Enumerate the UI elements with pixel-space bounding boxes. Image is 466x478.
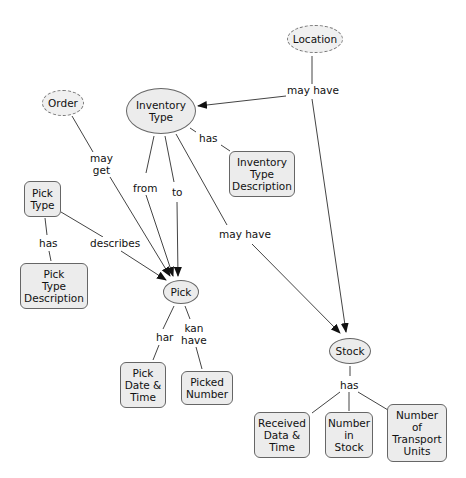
edge-label-location-inventory-may-have: may have — [286, 84, 340, 96]
node-pick-date-time[interactable]: Pick Date & Time — [120, 362, 166, 408]
edge-label-inventory-stock-may-have: may have — [218, 228, 272, 240]
node-stock[interactable]: Stock — [329, 338, 371, 364]
edge-label-from: from — [132, 182, 158, 194]
node-location[interactable]: Location — [287, 25, 343, 53]
node-pick-type[interactable]: Pick Type — [24, 181, 61, 217]
edge-label-describes: describes — [89, 237, 141, 249]
edge-label-kan-have: kan have — [180, 322, 208, 346]
node-number-in-stock[interactable]: Number in Stock — [325, 412, 373, 458]
node-number-of-transport-units[interactable]: Number of Transport Units — [387, 404, 447, 462]
node-order[interactable]: Order — [42, 90, 84, 116]
node-received-data-time[interactable]: Received Data & Time — [254, 412, 310, 458]
edge-label-order-pick-may-get: may get — [89, 152, 114, 176]
edge-label-inventory-has: has — [198, 132, 219, 144]
node-inventory-type[interactable]: Inventory Type — [126, 88, 196, 134]
node-pick-type-description[interactable]: Pick Type Description — [20, 263, 88, 309]
node-inventory-type-description[interactable]: Inventory Type Description — [229, 151, 295, 197]
edge-label-stock-has: has — [339, 379, 360, 391]
edge-label-pick-type-has: has — [38, 237, 59, 249]
edge-label-har: har — [155, 331, 174, 343]
node-pick[interactable]: Pick — [163, 280, 199, 304]
node-picked-number[interactable]: Picked Number — [181, 371, 233, 405]
edge-label-to: to — [171, 186, 184, 198]
